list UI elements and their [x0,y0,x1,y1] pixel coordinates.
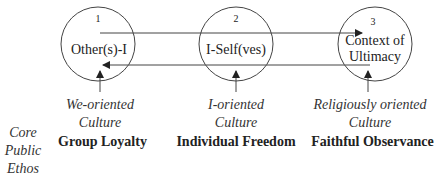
node-label-3: Context of Ultimacy [335,33,415,65]
orientation-label-3: Religiously oriented Culture [310,96,430,132]
orientation-label-1-line-1: We-oriented [60,96,140,114]
ethos-label-2: Individual Freedom [176,134,296,150]
node-number-3: 3 [363,16,383,27]
orientation-label-3-line-1: Religiously oriented [310,96,430,114]
ethos-label-1: Group Loyalty [55,134,150,150]
node-label-1-line-1: Other(s)-I [62,42,136,58]
node-label-2-line-1: I-Self(ves) [196,42,276,58]
node-label-1: Other(s)-I [62,42,136,58]
orientation-label-3-line-2: Culture [310,114,430,132]
orientation-label-1-line-2: Culture [60,114,140,132]
core-public-ethos-label: Core Public Ethos [4,124,42,173]
orientation-label-2: I-oriented Culture [196,96,276,132]
side-label-line-3: Ethos [4,160,42,173]
orientation-label-1: We-oriented Culture [60,96,140,132]
node-label-3-line-2: Ultimacy [335,49,415,65]
side-label-line-2: Public [4,142,42,160]
node-number-2: 2 [226,13,246,24]
node-label-2: I-Self(ves) [196,42,276,58]
orientation-label-2-line-1: I-oriented [196,96,276,114]
orientation-label-2-line-2: Culture [196,114,276,132]
side-label-line-1: Core [4,124,42,142]
node-number-1: 1 [88,13,108,24]
node-label-3-line-1: Context of [335,33,415,49]
ethos-label-3: Faithful Observance [310,134,435,150]
